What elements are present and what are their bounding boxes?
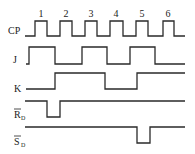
signal-label-k: K — [14, 83, 22, 94]
signal-label-cp: CP — [8, 25, 21, 36]
pulse-number-3: 3 — [89, 8, 94, 19]
waveform-j — [26, 47, 185, 64]
signal-k: K — [14, 73, 185, 94]
signal-label-sd-subscript: D — [21, 142, 26, 148]
pulse-number-5: 5 — [140, 8, 145, 19]
pulse-number-6: 6 — [166, 8, 171, 19]
waveform-sd — [25, 127, 185, 143]
pulse-numbers: 1 2 3 4 5 6 — [39, 8, 171, 19]
signal-label-rd: R — [14, 109, 21, 120]
pulse-number-1: 1 — [39, 8, 44, 19]
signal-cp: CP — [8, 21, 185, 36]
signal-rd: R D — [14, 101, 185, 121]
signal-label-sd: S — [14, 136, 20, 147]
waveform-cp — [25, 21, 185, 36]
signal-j: J — [13, 47, 185, 65]
pulse-number-4: 4 — [114, 8, 119, 19]
signal-label-j: J — [13, 54, 17, 65]
timing-diagram: 1 2 3 4 5 6 CP J K R D — [0, 0, 195, 154]
signal-label-rd-subscript: D — [21, 115, 26, 121]
waveform-k — [26, 73, 185, 89]
signal-sd: S D — [14, 127, 185, 148]
pulse-number-2: 2 — [64, 8, 69, 19]
waveform-rd — [25, 101, 185, 117]
timing-diagram-svg: 1 2 3 4 5 6 CP J K R D — [0, 0, 195, 154]
